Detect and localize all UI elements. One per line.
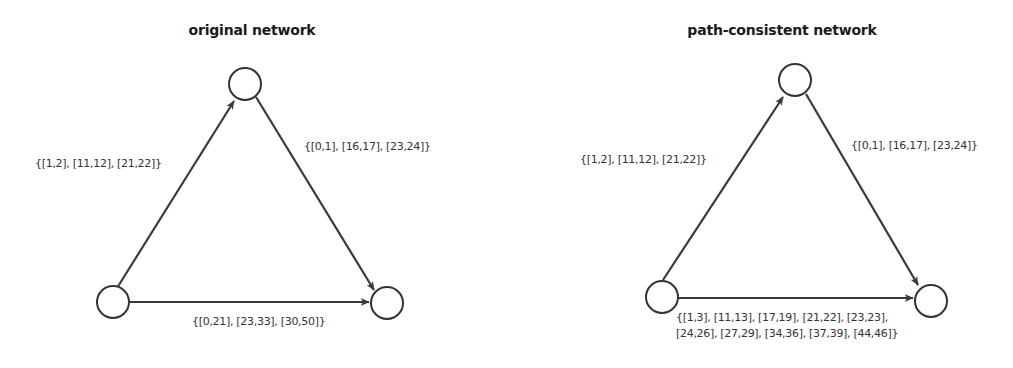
edge-bottomleft-to-top [117,101,234,288]
original-network-graph [97,68,403,319]
diagram-title-path-consistent: path-consistent network [687,22,876,38]
node-bottom-left [97,286,129,318]
edge-label-top-right: {[0,1], [16,17], [23,24]} [851,138,978,153]
diagram-title-original: original network [189,22,316,38]
node-top [779,64,811,96]
path-consistent-network-graph [646,64,947,317]
node-bottom-right [371,287,403,319]
node-bottom-left [646,281,678,313]
edge-top-to-bottomright [806,94,918,285]
edge-label-top-right: {[0,1], [16,17], [23,24]} [304,139,431,154]
edge-bottomleft-to-top [663,97,783,280]
edge-top-to-bottomright [256,97,374,290]
node-top [229,68,261,100]
node-bottom-right [915,285,947,317]
edge-label-top-left: {[1,2], [11,12], [21,22]} [35,156,162,171]
edge-label-bottom: {[0,21], [23,33], [30,50]} [192,314,325,329]
edge-label-bottom-line1: {[1,3], [11,13], [17,19], [21,22], [23,2… [676,310,888,325]
edge-label-bottom-line2: [24,26], [27,29], [34,36], [37,39], [44,… [676,326,898,341]
edge-label-top-left: {[1,2], [11,12], [21,22]} [580,152,707,167]
